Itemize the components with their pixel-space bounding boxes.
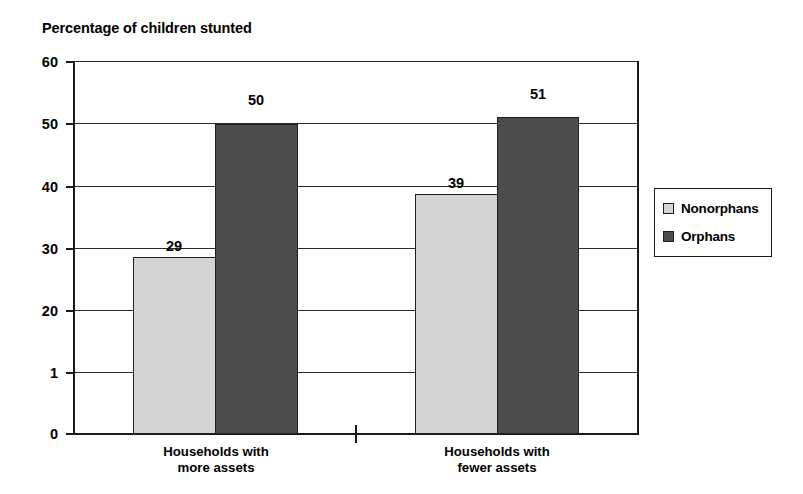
bar-g1-nonorphans[interactable]	[133, 257, 216, 434]
category-label-fewer-assets-line1: Households with	[444, 444, 550, 459]
bar-value-g2-orphans: 51	[530, 86, 546, 102]
ytick-label-60: 60	[0, 54, 58, 70]
gridline-60	[73, 61, 639, 62]
category-label-fewer-assets-line2: fewer assets	[457, 460, 536, 475]
bar-value-g1-nonorphans: 29	[166, 238, 182, 254]
ytick-label-10: 1	[0, 365, 58, 381]
legend-swatch-orphans-icon	[663, 231, 674, 242]
legend-swatch-nonorphans-icon	[663, 203, 674, 214]
ytick-label-30: 30	[0, 241, 58, 257]
ytick-label-0: 0	[0, 426, 58, 442]
category-label-fewer-assets: Households with fewer assets	[444, 444, 550, 476]
bar-value-g1-orphans: 50	[248, 92, 264, 108]
legend-item-orphans[interactable]: Orphans	[663, 226, 763, 247]
bar-g2-orphans[interactable]	[497, 117, 579, 434]
bar-g2-nonorphans[interactable]	[415, 194, 498, 434]
category-label-more-assets-line2: more assets	[178, 460, 255, 475]
bar-g1-orphans[interactable]	[215, 124, 298, 434]
bar-chart: Percentage of children stunted 60 50 40 …	[0, 0, 803, 494]
category-label-more-assets: Households with more assets	[163, 444, 269, 476]
category-label-more-assets-line1: Households with	[163, 444, 269, 459]
y-axis-line	[73, 61, 75, 435]
legend-item-nonorphans[interactable]: Nonorphans	[663, 198, 763, 219]
ytick-label-40: 40	[0, 179, 58, 195]
ytick-label-50: 50	[0, 116, 58, 132]
plot-right-edge	[637, 61, 639, 435]
x-axis-category-separator-tick	[355, 425, 357, 443]
bar-value-g2-nonorphans: 39	[448, 175, 464, 191]
legend-label-orphans: Orphans	[681, 229, 735, 244]
chart-title: Percentage of children stunted	[42, 20, 252, 36]
ytick-label-20: 20	[0, 303, 58, 319]
legend: Nonorphans Orphans	[654, 188, 772, 257]
legend-label-nonorphans: Nonorphans	[681, 201, 759, 216]
